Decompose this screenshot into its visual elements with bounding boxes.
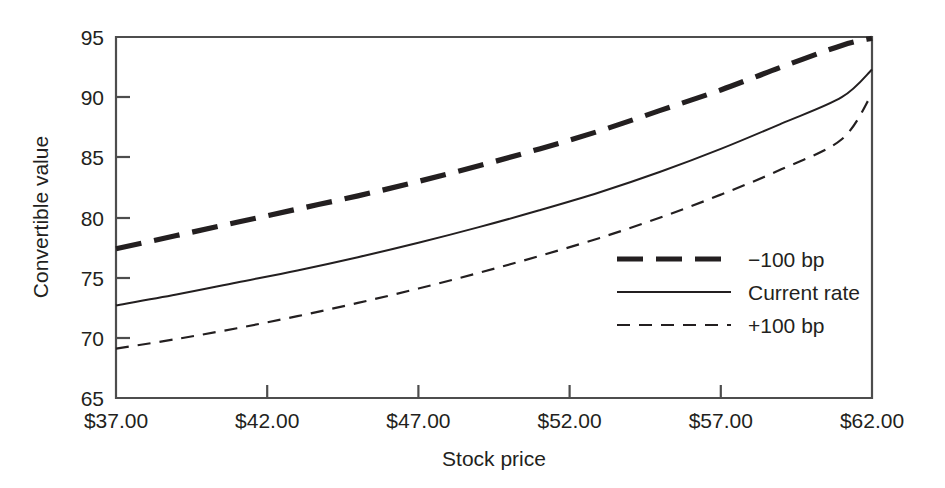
y-tick-label-70: 70	[81, 327, 104, 350]
series-line-plus-100-bp	[116, 94, 872, 349]
y-tick-label-90: 90	[81, 86, 104, 109]
y-axis-tick-labels: 95 90 85 80 75 70 65	[81, 26, 104, 410]
x-axis-ticks	[267, 385, 721, 398]
y-tick-label-95: 95	[81, 26, 104, 49]
legend-label-plus-100-bp: +100 bp	[748, 314, 825, 337]
chart-figure: 95 90 85 80 75 70 65 $37.00 $42.00 $47.0…	[0, 0, 945, 488]
convertible-value-line-chart: 95 90 85 80 75 70 65 $37.00 $42.00 $47.0…	[0, 0, 945, 488]
x-axis-title: Stock price	[442, 447, 546, 470]
legend-label-minus-100-bp: −100 bp	[748, 248, 825, 271]
x-axis-tick-labels: $37.00 $42.00 $47.00 $52.00 $57.00 $62.0…	[84, 409, 904, 432]
legend-label-current-rate: Current rate	[748, 281, 860, 304]
y-tick-label-80: 80	[81, 207, 104, 230]
axis-frame-rectangle	[116, 37, 872, 398]
y-tick-label-75: 75	[81, 267, 104, 290]
x-tick-label-47: $47.00	[386, 409, 450, 432]
x-tick-label-57: $57.00	[689, 409, 753, 432]
y-tick-label-65: 65	[81, 387, 104, 410]
x-tick-label-52: $52.00	[537, 409, 601, 432]
series-line-minus-100-bp	[116, 38, 872, 249]
plot-frame	[116, 37, 872, 398]
chart-legend: −100 bp Current rate +100 bp	[617, 248, 860, 337]
x-tick-label-37: $37.00	[84, 409, 148, 432]
y-axis-ticks	[116, 97, 130, 338]
y-tick-label-85: 85	[81, 146, 104, 169]
x-tick-label-62: $62.00	[840, 409, 904, 432]
y-axis-title: Convertible value	[29, 136, 52, 298]
x-tick-label-42: $42.00	[235, 409, 299, 432]
